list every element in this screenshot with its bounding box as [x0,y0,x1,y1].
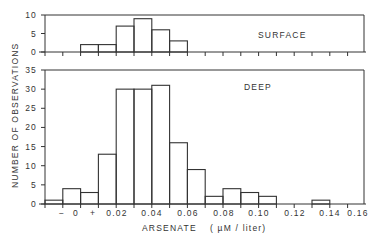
x-tick-label: − [59,208,65,218]
x-tick-label: 0.12 [284,208,305,218]
histogram-bar [312,200,330,204]
histogram-bar [116,89,134,204]
y-tick-label: 15 [25,142,37,152]
histogram-bar [205,196,223,204]
x-tick-label: 0.02 [106,208,127,218]
histogram-bar [152,30,170,52]
histogram-bar [116,26,134,52]
x-tick-label: 0.04 [141,208,162,218]
histogram-bar [98,154,116,204]
x-tick-label: + [90,208,96,218]
x-tick-label: 0.16 [347,208,368,218]
y-tick-label: 0 [31,47,37,57]
y-tick-label: 20 [25,122,37,132]
y-tick-label: 5 [31,29,37,39]
y-tick-label: 10 [25,161,37,171]
histogram-bar [187,170,205,204]
x-tick-label: 0.06 [177,208,198,218]
x-tick-label: 0.10 [248,208,269,218]
y-tick-label: 30 [25,84,37,94]
histogram-bar [63,189,81,204]
histogram-bar [45,200,63,204]
x-tick-label: 0.14 [319,208,340,218]
y-axis-label: NUMBER OF OBSERVATIONS [10,43,20,188]
x-tick-label: 0 [73,208,79,218]
histogram-bar [98,45,116,52]
histogram-bar [81,193,99,204]
y-tick-label: 5 [31,180,37,190]
deep-label: DEEP [244,82,272,92]
histogram-figure: 0510 05101520253035 −0+0.020.040.060.080… [0,0,372,240]
histogram-bar [170,143,188,204]
histogram-bar [259,196,277,204]
histogram-bar [81,45,99,52]
y-tick-label: 0 [31,199,37,209]
x-axis-label: ARSENATE [142,223,197,233]
surface-panel: 0510 [25,10,366,57]
y-tick-label: 35 [25,65,37,75]
axes: −0+0.020.040.060.080.100.120.140.16 [59,208,369,218]
histogram-bar [223,189,241,204]
histogram-bar [134,89,152,204]
x-tick-label: 0.08 [213,208,234,218]
histogram-bar [241,193,259,204]
surface-label: SURFACE [258,30,307,40]
deep-panel: 05101520253035 [25,65,366,209]
y-tick-label: 10 [25,10,37,20]
x-axis-unit: ( µM / liter) [210,223,266,233]
histogram-bar [170,41,188,52]
histogram-bar [134,19,152,52]
y-tick-label: 25 [25,103,37,113]
histogram-bar [152,85,170,204]
